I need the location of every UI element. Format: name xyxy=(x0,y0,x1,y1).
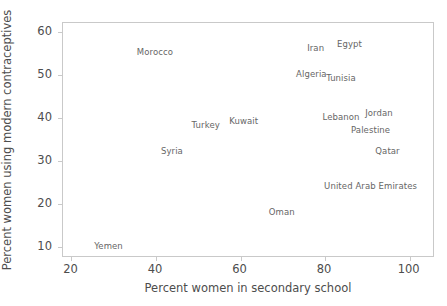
plot-area xyxy=(62,22,434,257)
x-tick-label: 20 xyxy=(63,262,78,276)
data-point-label: Kuwait xyxy=(229,116,258,126)
y-tick-mark xyxy=(58,75,63,76)
y-tick-label: 20 xyxy=(37,196,52,210)
data-point-label: Turkey xyxy=(192,120,220,130)
x-tick-mark xyxy=(71,256,72,261)
y-tick-label: 60 xyxy=(37,24,52,38)
data-point-label: Oman xyxy=(269,207,295,217)
y-axis-title-text: Percent women using modern contraceptive… xyxy=(0,9,14,270)
data-point-label: Egypt xyxy=(337,39,362,49)
data-point-label: Yemen xyxy=(94,241,123,251)
x-tick-mark xyxy=(325,256,326,261)
data-point-label: United Arab Emirates xyxy=(324,181,417,191)
y-tick-mark xyxy=(58,32,63,33)
x-tick-label: 40 xyxy=(148,262,163,276)
y-tick-label: 50 xyxy=(37,67,52,81)
x-tick-label: 60 xyxy=(232,262,247,276)
y-tick-mark xyxy=(58,204,63,205)
data-point-label: Syria xyxy=(161,146,183,156)
x-tick-mark xyxy=(241,256,242,261)
y-tick-mark xyxy=(58,247,63,248)
x-tick-label: 100 xyxy=(398,262,420,276)
y-axis-title: Percent women using modern contraceptive… xyxy=(0,22,14,257)
data-point-label: Iran xyxy=(307,43,324,53)
x-tick-label: 80 xyxy=(317,262,332,276)
data-point-label: Palestine xyxy=(351,125,390,135)
y-tick-label: 40 xyxy=(37,110,52,124)
y-tick-label: 10 xyxy=(37,239,52,253)
y-tick-mark xyxy=(58,118,63,119)
y-tick-mark xyxy=(58,161,63,162)
data-point-label: Lebanon xyxy=(322,112,359,122)
x-axis-title: Percent women in secondary school xyxy=(62,281,434,295)
x-tick-mark xyxy=(156,256,157,261)
data-point-label: Jordan xyxy=(365,108,393,118)
data-point-label: Tunisia xyxy=(326,73,356,83)
y-tick-label: 30 xyxy=(37,153,52,167)
scatter-chart: Percent women using modern contraceptive… xyxy=(0,0,447,306)
data-point-label: Qatar xyxy=(375,146,399,156)
x-tick-mark xyxy=(410,256,411,261)
data-point-label: Algeria xyxy=(296,69,327,79)
data-point-label: Morocco xyxy=(137,47,173,57)
